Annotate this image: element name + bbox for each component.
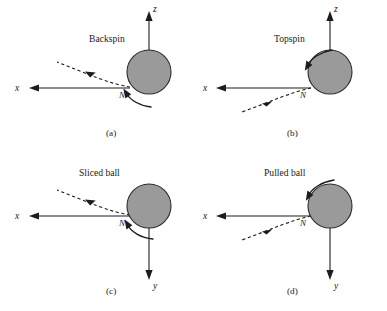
panel-b-x-axis: x [202,83,311,93]
y-axis-arrowhead-icon [145,270,152,280]
panel-b-z-axis: z [326,4,338,50]
panel-d-x-axis: x [202,211,311,221]
panel-b: z x N Topspin (b) [202,4,352,138]
panel-d-node-label: N [299,218,307,228]
ball-d [308,184,352,228]
panel-b-tag: (b) [287,128,298,138]
z-axis-arrowhead-icon [145,11,152,21]
panel-d-x-label: x [202,211,208,221]
spin-diagram-figure: z x N Backspin [0,0,387,311]
panel-c-x-axis: x [14,211,130,221]
ball-a [127,50,171,94]
x-axis-arrowhead-icon [216,212,226,219]
panel-a-z-axis: z [145,4,157,50]
y-axis-arrowhead-icon [326,270,333,280]
panel-a-title: Backspin [89,33,125,44]
figure-canvas: z x N Backspin [0,0,387,311]
panel-d-y-label: y [333,281,339,291]
panel-a: z x N Backspin [14,4,171,138]
panel-a-trajectory [57,62,130,87]
spin-arc-arrowhead-icon [125,219,133,229]
trajectory-dashed-path [57,190,130,215]
panel-b-z-label: z [333,4,338,14]
panel-b-node-label: N [299,90,307,100]
panel-c: y x N Sliced ball (c) [14,167,171,296]
x-axis-arrowhead-icon [216,84,226,91]
panel-d-title: Pulled ball [264,167,306,178]
x-axis-arrowhead-icon [29,212,39,219]
panel-c-y-label: y [152,281,158,291]
x-axis-arrowhead-icon [29,84,39,91]
panel-c-trajectory [57,190,130,215]
panel-a-x-axis: x [14,83,130,93]
panel-c-tag: (c) [106,286,116,296]
panel-c-x-label: x [14,211,20,221]
panel-d: y x N Pulled ball (d) [202,167,352,296]
panel-b-x-label: x [202,83,208,93]
panel-b-title: Topspin [274,33,305,44]
panel-c-title: Sliced ball [79,167,120,178]
panel-c-node-label: N [118,218,126,228]
panel-d-y-axis: y [326,228,339,291]
ball-c [127,184,171,228]
panel-a-tag: (a) [106,128,116,138]
panel-d-tag: (d) [287,286,298,296]
z-axis-arrowhead-icon [326,11,333,21]
panel-a-x-label: x [14,83,20,93]
trajectory-arrowhead-icon [262,229,272,234]
trajectory-arrowhead-icon [262,101,272,106]
panel-a-z-label: z [152,4,157,14]
trajectory-dashed-path [57,62,130,87]
